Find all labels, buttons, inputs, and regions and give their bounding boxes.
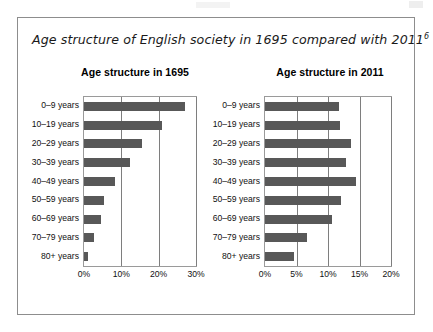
- bar: [265, 215, 332, 224]
- bar: [265, 196, 341, 205]
- category-label: 0–9 years: [222, 101, 260, 110]
- x-tick-label: 5%: [290, 269, 302, 279]
- chart-2011-gridline: [391, 97, 392, 266]
- x-tick-label: 10%: [319, 269, 336, 279]
- category-label: 20–29 years: [213, 139, 260, 148]
- x-tick-label: 0%: [78, 269, 90, 279]
- category-label: 30–39 years: [213, 158, 260, 167]
- category-label: 50–59 years: [213, 195, 260, 204]
- bar: [265, 102, 339, 111]
- x-tick-label: 15%: [351, 269, 368, 279]
- figure-title: Age structure of English society in 1695…: [32, 32, 429, 47]
- x-tick-label: 0%: [259, 269, 271, 279]
- category-label: 10–19 years: [213, 120, 260, 129]
- category-label: 40–49 years: [213, 177, 260, 186]
- category-label: 60–69 years: [32, 214, 79, 223]
- bar: [265, 158, 346, 167]
- chart-2011-title: Age structure in 2011: [216, 66, 414, 78]
- x-tick-label: 20%: [382, 269, 399, 279]
- chart-1695-plot-area: [83, 96, 197, 267]
- chart-2011-gridline: [360, 97, 361, 266]
- page-edge-artifacts: [0, 0, 433, 14]
- bar: [84, 177, 115, 186]
- chart-2011-category-labels: 0–9 years10–19 years20–29 years30–39 yea…: [216, 96, 262, 267]
- chart-2011-plot-area: [264, 96, 392, 267]
- category-label: 60–69 years: [213, 214, 260, 223]
- chart-1695: Age structure in 1695 0–9 years10–19 yea…: [20, 66, 216, 314]
- category-label: 0–9 years: [41, 101, 79, 110]
- category-label: 30–39 years: [32, 158, 79, 167]
- chart-1695-category-labels: 0–9 years10–19 years20–29 years30–39 yea…: [20, 96, 81, 267]
- category-label: 70–79 years: [32, 233, 79, 242]
- x-tick-label: 30%: [187, 269, 204, 279]
- bar: [84, 215, 101, 224]
- category-label: 40–49 years: [32, 177, 79, 186]
- bar: [265, 139, 351, 148]
- bar: [84, 196, 104, 205]
- bar: [265, 252, 294, 261]
- figure-title-text: Age structure of English society in 1695…: [32, 32, 424, 47]
- chart-2011: Age structure in 2011 0–9 years10–19 yea…: [216, 66, 414, 314]
- chart-1695-gridline: [196, 97, 197, 266]
- bar: [84, 121, 162, 130]
- figure-title-footnote-marker: 6: [424, 32, 429, 41]
- scan-artifact-corner: [409, 1, 423, 8]
- bar: [84, 139, 142, 148]
- chart-2011-x-axis-labels: 0%5%10%15%20%: [264, 269, 392, 283]
- bar: [265, 177, 356, 186]
- category-label: 70–79 years: [213, 233, 260, 242]
- chart-2011-bars: [265, 97, 391, 266]
- category-label: 50–59 years: [32, 195, 79, 204]
- category-label: 20–29 years: [32, 139, 79, 148]
- bar: [265, 121, 340, 130]
- bar: [84, 102, 185, 111]
- chart-1695-x-axis-labels: 0%10%20%30%: [83, 269, 197, 283]
- category-label: 80+ years: [41, 252, 79, 261]
- scan-artifact-top: [196, 2, 230, 8]
- bar: [265, 233, 307, 242]
- category-label: 10–19 years: [32, 120, 79, 129]
- category-label: 80+ years: [222, 252, 260, 261]
- chart-1695-title: Age structure in 1695: [20, 66, 216, 78]
- x-tick-label: 10%: [113, 269, 130, 279]
- figure-container: Age structure of English society in 1695…: [17, 17, 415, 315]
- bar: [84, 158, 130, 167]
- bar: [84, 233, 94, 242]
- x-tick-label: 20%: [150, 269, 167, 279]
- charts-area: Age structure in 1695 0–9 years10–19 yea…: [18, 66, 414, 314]
- chart-1695-bars: [84, 97, 196, 266]
- bar: [84, 252, 88, 261]
